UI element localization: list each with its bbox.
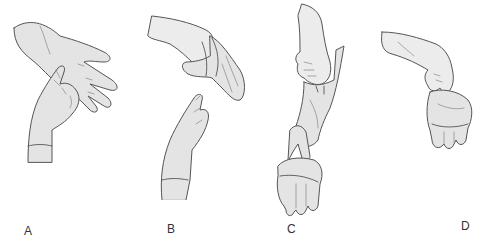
panel-a — [0, 0, 140, 200]
panel-label-c: C — [287, 222, 296, 236]
panel-label-b: B — [167, 222, 175, 236]
hand-holding-balled-gloves-icon — [370, 20, 480, 180]
hand-peeling-glove-inside-out-icon — [130, 0, 270, 200]
panel-label-d: D — [461, 219, 470, 233]
hand-holding-removed-glove-icon — [260, 0, 360, 220]
panel-c — [260, 0, 360, 220]
panel-label-a: A — [24, 224, 32, 238]
panel-d — [370, 20, 480, 180]
panel-b — [130, 0, 270, 200]
hand-pinching-glove-palm-icon — [0, 0, 140, 200]
